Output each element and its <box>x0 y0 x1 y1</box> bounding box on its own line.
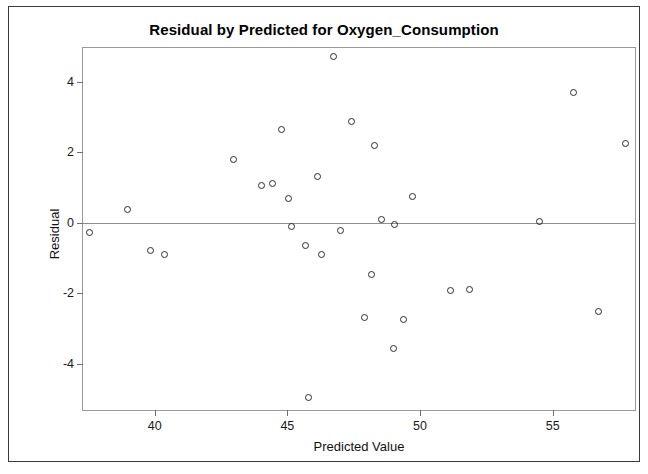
data-point <box>348 118 355 125</box>
x-axis-tick-label: 55 <box>546 419 560 433</box>
data-point <box>161 251 168 258</box>
data-point <box>368 271 375 278</box>
data-point <box>536 218 543 225</box>
x-axis-tick-label: 40 <box>148 419 162 433</box>
y-axis-tick-label: 0 <box>67 216 74 230</box>
x-axis-title: Predicted Value <box>82 439 636 454</box>
data-point <box>622 140 629 147</box>
data-point <box>400 316 407 323</box>
y-axis-tick-label: 4 <box>67 75 74 89</box>
x-axis-tick <box>553 410 554 416</box>
x-axis-tick <box>287 410 288 416</box>
data-point <box>361 314 368 321</box>
chart-outer-frame: Residual by Predicted for Oxygen_Consump… <box>8 6 640 462</box>
data-point <box>288 223 295 230</box>
data-point <box>147 247 154 254</box>
y-axis-tick-label: 2 <box>67 145 74 159</box>
y-axis-tick-label: -4 <box>63 357 74 371</box>
y-axis-tick <box>77 152 83 153</box>
y-axis-tick <box>77 223 83 224</box>
x-axis-tick-label: 50 <box>413 419 427 433</box>
x-axis-tick <box>155 410 156 416</box>
data-point <box>466 286 473 293</box>
data-point <box>258 182 265 189</box>
x-axis-tick-label: 45 <box>280 419 294 433</box>
data-point <box>124 206 131 213</box>
data-point <box>390 345 397 352</box>
plot-area: 420-2-440455055 <box>82 47 636 411</box>
data-point <box>391 221 398 228</box>
plot-canvas <box>83 48 635 410</box>
data-point <box>86 229 93 236</box>
data-point <box>337 227 344 234</box>
data-point <box>302 242 309 249</box>
data-point <box>314 173 321 180</box>
chart-title: Residual by Predicted for Oxygen_Consump… <box>9 21 639 38</box>
data-point <box>447 287 454 294</box>
data-point <box>570 89 577 96</box>
y-axis-tick <box>77 364 83 365</box>
data-point <box>330 53 337 60</box>
data-point <box>230 156 237 163</box>
x-axis-tick <box>420 410 421 416</box>
zero-residual-line <box>83 223 635 224</box>
y-axis-tick-label: -2 <box>63 286 74 300</box>
y-axis-title: Residual <box>47 209 62 260</box>
data-point <box>595 308 602 315</box>
data-point <box>285 195 292 202</box>
data-point <box>305 394 312 401</box>
data-point <box>318 251 325 258</box>
y-axis-tick <box>77 82 83 83</box>
data-point <box>269 180 276 187</box>
y-axis-tick <box>77 293 83 294</box>
data-point <box>371 142 378 149</box>
data-point <box>409 193 416 200</box>
data-point <box>278 126 285 133</box>
